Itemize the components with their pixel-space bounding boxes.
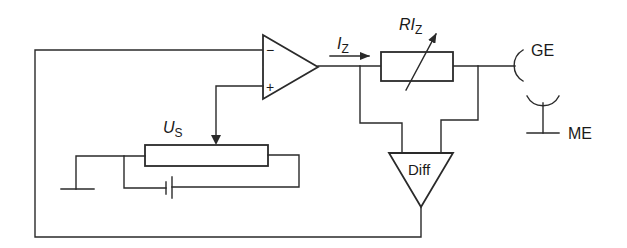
circuit-diagram: − + IZ RIZ <box>0 0 627 248</box>
electrode-me: ME <box>527 96 592 142</box>
source-voltage-label: US <box>163 119 183 140</box>
electrode-me-label: ME <box>568 125 592 142</box>
op-amp: − + <box>263 35 318 99</box>
diff-label: Diff <box>408 161 431 178</box>
resistor-label: RIZ <box>399 16 422 37</box>
electrode-ge-label: GE <box>531 42 554 59</box>
wiper-arrow-icon <box>211 135 221 145</box>
diff-amplifier: Diff <box>389 153 453 207</box>
potentiometer: US <box>145 119 268 166</box>
electrode-ge: GE <box>514 42 554 81</box>
battery-icon <box>166 177 172 198</box>
wiper-wire <box>211 86 263 145</box>
current-label: IZ <box>337 35 349 56</box>
op-amp-plus-symbol: + <box>266 79 274 95</box>
op-amp-minus-symbol: − <box>266 42 274 58</box>
feedback-wire <box>35 50 421 237</box>
current-arrow: IZ <box>330 35 369 56</box>
variable-resistor: RIZ <box>381 16 453 90</box>
